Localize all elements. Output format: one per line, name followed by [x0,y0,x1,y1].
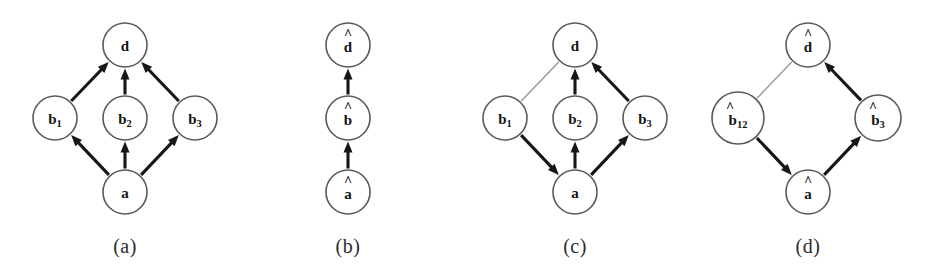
edge-a-to-b3 [591,142,623,175]
hat-accent-d-ah: ^ [804,174,812,189]
arrowhead-a-to-b2 [571,142,580,153]
arrowhead-b2-to-d [121,69,130,80]
panel-caption-d: (d) [796,235,821,258]
graph-canvas: db1b2b3ad^b^a^db1b2b3ad^b12^b3^a^ [0,0,945,274]
edge-b12h-to-dh [757,62,792,98]
edge-b1-to-d [521,62,558,101]
hat-accent-b-dh: ^ [344,27,352,42]
edge-b3-to-d [598,68,629,101]
edge-b1-to-d [71,68,102,101]
panel-c-nodes: db1b2b3a [483,23,667,214]
edge-a-to-b1 [77,142,109,175]
edge-b1-to-a [521,135,553,168]
edge-b3h-to-dh [831,68,862,100]
hat-accent-b-ah: ^ [344,174,352,189]
panel-caption-c: (c) [563,235,587,258]
panel-a-nodes: db1b2b3a [33,23,217,214]
edge-a-to-b3 [141,142,173,175]
node-label-a-a: a [121,185,129,201]
hat-accent-d-dh: ^ [804,27,812,42]
panel-d-nodes: d^b12^b3^a^ [712,23,901,214]
arrowhead-b2-to-d [571,69,580,80]
panel-caption-b: (b) [336,235,361,258]
arrowhead-ah-to-bh [344,142,353,153]
figure-root: db1b2b3ad^b^a^db1b2b3ad^b12^b3^a^ (a)(b)… [0,0,945,274]
panel-b-nodes: d^b^a^ [326,23,370,214]
arrowhead-a-to-b2 [121,142,130,153]
hat-accent-d-b12h: ^ [726,100,734,115]
node-label-a-d: d [121,38,130,54]
node-label-c-d: d [571,38,580,54]
arrowhead-bh-to-dh [344,69,353,80]
node-label-c-a: a [571,185,579,201]
hat-accent-d-b3h: ^ [869,100,877,115]
hat-accent-b-bh: ^ [344,100,352,115]
edge-b3-to-d [148,68,179,101]
panel-caption-a: (a) [113,235,137,258]
edge-ah-to-b3h [824,142,855,175]
edge-b12h-to-ah [757,138,786,168]
panel-d-edges [757,62,861,175]
